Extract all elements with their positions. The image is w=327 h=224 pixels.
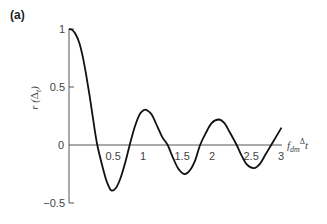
y-axis-label: r (Δt) (28, 86, 43, 110)
chart: 10.50−0.50.511.522.53 r (Δt) fdmΔt (0, 0, 327, 224)
x-tick-label: 1 (140, 150, 146, 162)
x-tick-label: 2.5 (244, 150, 259, 162)
y-tick-label: 0 (58, 139, 64, 151)
ticks: 10.50−0.50.511.522.53 (43, 23, 284, 209)
x-tick-label: 0.5 (106, 150, 121, 162)
x-tick-label: 3 (278, 150, 284, 162)
y-tick-label: −0.5 (43, 197, 65, 209)
data-line (69, 29, 282, 191)
x-tick-label: 2 (209, 150, 215, 162)
y-tick-label: 0.5 (50, 81, 65, 93)
y-tick-label: 1 (59, 23, 65, 35)
axes (69, 29, 282, 203)
x-tick-label: 1.5 (175, 150, 190, 162)
x-axis-label: fdmΔt (287, 137, 309, 154)
